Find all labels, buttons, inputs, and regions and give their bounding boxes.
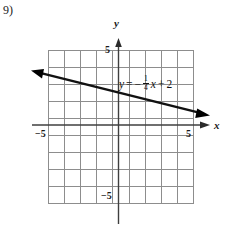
y-tick-label-5: 5 (105, 44, 110, 55)
x-tick-label-5: 5 (186, 128, 191, 139)
worksheet-problem: 9) (0, 0, 234, 231)
fraction-denominator: 4 (143, 84, 149, 92)
equation-annotation: y = − 1 4 x + 2 (119, 75, 172, 92)
x-tick-label-neg5: −5 (35, 128, 46, 139)
y-axis-arrowhead (115, 38, 122, 47)
line-arrowhead-left (31, 69, 44, 78)
x-axis-arrowhead (200, 122, 210, 129)
y-axis-label: y (114, 17, 119, 29)
y-tick-label-neg5: −5 (101, 190, 112, 201)
coordinate-graph (0, 0, 234, 231)
x-axis-label: x (214, 119, 220, 131)
equation-plus: + (158, 78, 165, 90)
equation-variable: x (151, 78, 156, 90)
axes (32, 44, 204, 224)
equation-equals: = (126, 78, 133, 90)
line-arrowhead-right (195, 109, 210, 118)
equation-fraction: 1 4 (143, 75, 149, 92)
equation-lhs: y (119, 78, 124, 90)
fraction-numerator: 1 (143, 75, 149, 83)
equation-constant: 2 (166, 78, 172, 90)
grid-lines (48, 50, 194, 203)
equation-minus: − (135, 78, 142, 90)
